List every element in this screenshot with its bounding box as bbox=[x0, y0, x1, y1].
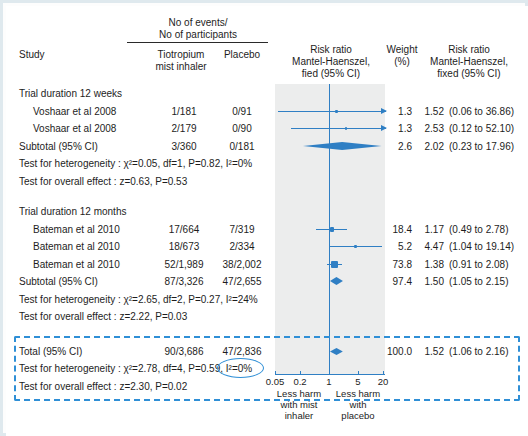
plot-header-line1: Risk ratio bbox=[310, 44, 352, 55]
row-effect-ci: (0.91 to 2.08) bbox=[449, 259, 508, 270]
row-control-events: 0/90 bbox=[232, 123, 251, 134]
row-effect-ci: (0.49 to 2.78) bbox=[449, 224, 508, 235]
weight-header-line2: (%) bbox=[394, 56, 410, 67]
group-heterogeneity-test: Test for heterogeneity : χ²=0.05, df=1, … bbox=[19, 158, 252, 169]
figure-frame: No of events/ No of participants Study T… bbox=[0, 0, 528, 436]
group-heterogeneity-test: Test for heterogeneity : χ²=2.65, df=2, … bbox=[19, 294, 258, 305]
group-overall-effect-test: Test for overall effect : z=2.22, P=0.03 bbox=[19, 311, 187, 322]
row-effect-estimate: 2.02 bbox=[425, 141, 444, 152]
row-treatment-events: 3/360 bbox=[171, 141, 196, 152]
row-study-label: Voshaar et al 2008 bbox=[33, 106, 116, 117]
effect-header-line1: Risk ratio bbox=[448, 44, 490, 55]
row-effect-ci: (0.06 to 36.86) bbox=[449, 106, 514, 117]
row-weight: 97.4 bbox=[393, 276, 412, 287]
column-header-treatment-line1: Tiotropium bbox=[158, 49, 205, 60]
events-header-rule bbox=[127, 42, 268, 43]
group-heading: Trial duration 12 weeks bbox=[19, 88, 122, 99]
row-weight: 73.8 bbox=[393, 259, 412, 270]
row-study-label: Bateman et al 2010 bbox=[33, 224, 120, 235]
row-control-events: 38/2,002 bbox=[223, 259, 262, 270]
row-control-events: 0/181 bbox=[229, 141, 254, 152]
row-effect-estimate: 1.38 bbox=[425, 259, 444, 270]
row-study-label: Subtotal (95% CI) bbox=[19, 141, 98, 152]
row-treatment-events: 87/3,326 bbox=[165, 276, 204, 287]
column-header-treatment-line2: mist inhaler bbox=[155, 61, 206, 72]
summary-diamond bbox=[302, 141, 383, 151]
effect-header-line3: fixed (95% CI) bbox=[437, 68, 500, 79]
row-weight: 18.4 bbox=[393, 224, 412, 235]
row-study-label: Bateman et al 2010 bbox=[33, 259, 120, 270]
summary-diamond bbox=[329, 276, 344, 286]
row-weight: 1.3 bbox=[398, 106, 412, 117]
row-control-events: 7/319 bbox=[229, 224, 254, 235]
row-treatment-events: 1/181 bbox=[171, 106, 196, 117]
row-study-label: Subtotal (95% CI) bbox=[19, 276, 98, 287]
row-effect-estimate: 4.47 bbox=[425, 241, 444, 252]
row-treatment-events: 17/664 bbox=[169, 224, 200, 235]
ci-right-arrow-icon bbox=[381, 125, 387, 131]
row-effect-estimate: 2.53 bbox=[425, 123, 444, 134]
row-effect-ci: (1.05 to 2.15) bbox=[449, 276, 508, 287]
row-effect-estimate: 1.50 bbox=[425, 276, 444, 287]
row-effect-ci: (0.12 to 52.10) bbox=[449, 123, 514, 134]
row-effect-ci: (0.23 to 17.96) bbox=[449, 141, 514, 152]
row-control-events: 0/91 bbox=[232, 106, 251, 117]
effect-point-marker bbox=[331, 261, 338, 268]
row-study-label: Bateman et al 2010 bbox=[33, 241, 120, 252]
confidence-interval-line bbox=[278, 111, 386, 112]
row-weight: 1.3 bbox=[398, 123, 412, 134]
row-effect-ci: (1.04 to 19.14) bbox=[449, 241, 514, 252]
effect-point-marker bbox=[330, 227, 334, 231]
column-header-study: Study bbox=[19, 49, 45, 60]
effect-header-line2: Mantel-Haenszel, bbox=[430, 56, 508, 67]
row-effect-estimate: 1.52 bbox=[425, 106, 444, 117]
ci-right-arrow-icon bbox=[381, 108, 387, 114]
group-heading: Trial duration 12 months bbox=[19, 206, 126, 217]
confidence-interval-line bbox=[291, 128, 386, 129]
row-control-events: 47/2,655 bbox=[223, 276, 262, 287]
row-weight: 5.2 bbox=[398, 241, 412, 252]
row-study-label: Voshaar et al 2008 bbox=[33, 123, 116, 134]
row-treatment-events: 18/673 bbox=[169, 241, 200, 252]
row-control-events: 2/334 bbox=[229, 241, 254, 252]
row-treatment-events: 52/1,989 bbox=[165, 259, 204, 270]
axis-left-label-line3: inhaler bbox=[277, 410, 321, 421]
row-weight: 2.6 bbox=[398, 141, 412, 152]
events-group-header-line2: No of participants bbox=[159, 29, 237, 40]
figure-sheet: No of events/ No of participants Study T… bbox=[6, 6, 528, 436]
row-treatment-events: 2/179 bbox=[171, 123, 196, 134]
weight-header-line1: Weight bbox=[387, 44, 418, 55]
plot-header-line3: fied (95% CI) bbox=[302, 68, 360, 79]
effect-point-marker bbox=[345, 127, 347, 129]
axis-right-label-line3: placebo bbox=[336, 410, 380, 421]
events-group-header-line1: No of events/ bbox=[169, 17, 228, 28]
i-squared-circle-annotation bbox=[217, 358, 264, 378]
column-header-control: Placebo bbox=[224, 49, 260, 60]
group-overall-effect-test: Test for overall effect : z=0.63, P=0.53 bbox=[19, 176, 187, 187]
effect-point-marker bbox=[335, 110, 337, 112]
plot-header-line2: Mantel-Haenszel, bbox=[292, 56, 370, 67]
total-section-highlight-box bbox=[14, 336, 520, 402]
row-effect-estimate: 1.17 bbox=[425, 224, 444, 235]
